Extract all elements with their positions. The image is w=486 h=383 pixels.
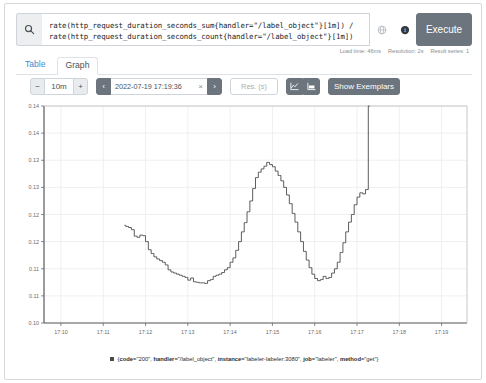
svg-text:0.14: 0.14 <box>29 103 40 109</box>
legend-color-swatch <box>110 357 114 361</box>
svg-text:17:18: 17:18 <box>393 329 407 335</box>
svg-text:17:10: 17:10 <box>54 329 68 335</box>
time-input-group: ‹ 2022-07-19 17:19:36 × › <box>96 78 222 95</box>
clear-time-icon[interactable]: × <box>198 82 203 91</box>
end-time-input[interactable]: 2022-07-19 17:19:36 × <box>111 78 207 95</box>
svg-text:17:19: 17:19 <box>435 329 449 335</box>
help-info-icon[interactable]: i <box>393 13 416 46</box>
resolution-input[interactable]: Res. (s) <box>230 78 278 95</box>
svg-text:0.11: 0.11 <box>29 266 39 272</box>
svg-text:0.10: 0.10 <box>29 320 40 326</box>
stacked-chart-icon[interactable] <box>303 78 320 95</box>
stat-load-time: Load time: 46ms <box>340 48 381 54</box>
stat-result-series: Result series: 1 <box>430 48 469 54</box>
line-chart-icon[interactable] <box>286 78 303 95</box>
query-input[interactable]: rate(http_request_duration_seconds_sum{h… <box>42 13 370 46</box>
legend-series-label[interactable]: {code="200", handler="/label_object", in… <box>118 356 379 362</box>
svg-text:17:12: 17:12 <box>139 329 153 335</box>
query-stats: Load time: 46ms Resolution: 2s Result se… <box>340 48 469 54</box>
graph-svg: 0.100.110.110.120.120.130.130.140.1417:1… <box>16 100 472 345</box>
svg-text:0.12: 0.12 <box>29 239 40 245</box>
end-time-value: 2022-07-19 17:19:36 <box>115 82 182 91</box>
tab-table[interactable]: Table <box>16 56 55 74</box>
graph-legend: {code="200", handler="/label_object", in… <box>16 356 472 362</box>
svg-text:0.12: 0.12 <box>29 212 40 218</box>
query-panel: rate(http_request_duration_seconds_sum{h… <box>4 3 482 380</box>
query-row: rate(http_request_duration_seconds_sum{h… <box>16 13 472 46</box>
svg-text:17:14: 17:14 <box>223 329 237 335</box>
chart-type-toggle-group <box>286 78 320 95</box>
svg-text:17:11: 17:11 <box>97 329 110 335</box>
result-tabs: Table Graph <box>16 58 472 75</box>
svg-text:17:16: 17:16 <box>308 329 322 335</box>
query-line-2: rate(http_request_duration_seconds_count… <box>49 31 363 42</box>
resolution-placeholder: Res. (s) <box>241 82 267 91</box>
query-line-1: rate(http_request_duration_seconds_sum{h… <box>49 20 363 31</box>
svg-text:17:17: 17:17 <box>350 329 364 335</box>
execute-button[interactable]: Execute <box>416 13 472 46</box>
svg-text:0.14: 0.14 <box>29 130 40 136</box>
tab-graph[interactable]: Graph <box>57 57 99 75</box>
range-decrease-button[interactable]: − <box>30 78 45 95</box>
range-increase-button[interactable]: + <box>73 78 88 95</box>
time-previous-button[interactable]: ‹ <box>96 78 111 95</box>
range-input-group: − 10m + <box>30 78 88 95</box>
search-icon <box>16 13 42 46</box>
prometheus-graph-page: rate(http_request_duration_seconds_sum{h… <box>0 0 486 383</box>
metrics-explorer-globe-icon[interactable] <box>370 13 393 46</box>
graph-controls-toolbar: − 10m + ‹ 2022-07-19 17:19:36 × › Res. (… <box>30 78 400 95</box>
svg-text:0.11: 0.11 <box>29 293 39 299</box>
show-exemplars-button[interactable]: Show Exemplars <box>328 78 400 95</box>
svg-text:0.13: 0.13 <box>29 184 40 190</box>
time-next-button[interactable]: › <box>207 78 222 95</box>
svg-text:17:15: 17:15 <box>266 329 280 335</box>
stat-resolution: Resolution: 2s <box>388 48 423 54</box>
graph-canvas[interactable]: 0.100.110.110.120.120.130.130.140.1417:1… <box>16 100 472 345</box>
svg-text:0.13: 0.13 <box>29 157 40 163</box>
svg-text:17:13: 17:13 <box>181 329 195 335</box>
range-value-input[interactable]: 10m <box>45 78 73 95</box>
